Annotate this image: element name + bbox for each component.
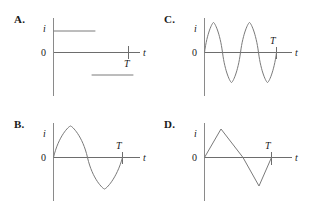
waveform-plot-a: i 0 T t — [0, 0, 156, 105]
waveform-plot-d: i 0 T t — [156, 105, 312, 210]
origin-label-d: 0 — [192, 152, 197, 163]
origin-label-c: 0 — [192, 47, 197, 58]
y-axis-label-a: i — [43, 23, 46, 34]
origin-label-a: 0 — [41, 47, 46, 58]
waveform-plot-b: i 0 T t — [0, 105, 156, 210]
origin-label-b: 0 — [41, 152, 46, 163]
answer-choice-panel-b: B. i 0 T t — [0, 105, 156, 210]
x-axis-label-b: t — [143, 152, 146, 163]
period-label-c: T — [270, 35, 277, 46]
x-axis-label-a: t — [143, 47, 146, 58]
period-label-d: T — [265, 140, 272, 151]
period-label-a: T — [124, 58, 131, 69]
answer-choice-panel-d: D. i 0 T t — [156, 105, 312, 210]
waveform-plot-c: i 0 T t — [156, 0, 312, 105]
y-axis-label-d: i — [194, 128, 197, 139]
y-axis-label-c: i — [194, 23, 197, 34]
answer-choice-panel-a: A. i 0 T t — [0, 0, 156, 105]
x-axis-label-d: t — [295, 152, 298, 163]
answer-choice-panel-c: C. i 0 T t — [156, 0, 312, 105]
period-label-b: T — [116, 140, 123, 151]
x-axis-label-c: t — [295, 47, 298, 58]
waveform-answer-choices-figure: A. i 0 T t C. — [0, 0, 312, 210]
y-axis-label-b: i — [43, 128, 46, 139]
